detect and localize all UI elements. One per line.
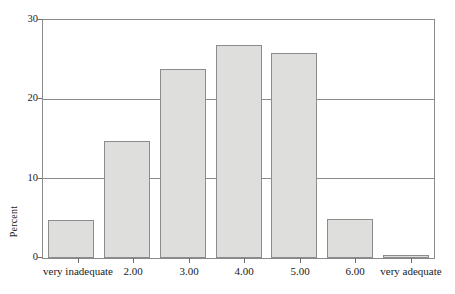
x-tick-mark-5 xyxy=(300,258,301,263)
x-tick-mark-3 xyxy=(189,258,190,263)
x-tick-mark-1 xyxy=(78,258,79,263)
y-tick-label-10: 10 xyxy=(12,173,38,184)
histogram-chart: Percent 30 20 10 0 very inadequate 2.00 … xyxy=(0,0,455,294)
bar xyxy=(48,220,94,258)
bar-series xyxy=(43,20,434,258)
x-tick-label-7: very adequate xyxy=(380,265,441,277)
bar xyxy=(216,45,262,258)
x-tick-label-4: 4.00 xyxy=(234,265,253,277)
x-tick-label-2: 2.00 xyxy=(123,265,142,277)
bar xyxy=(271,53,317,258)
x-tick-mark-6 xyxy=(355,258,356,263)
x-tick-label-5: 5.00 xyxy=(290,265,309,277)
y-axis-ticks: 30 20 10 0 xyxy=(10,0,38,294)
x-tick-mark-2 xyxy=(133,258,134,263)
bar xyxy=(327,219,373,258)
y-tick-label-30: 30 xyxy=(12,14,38,25)
bar xyxy=(160,69,206,258)
x-tick-label-6: 6.00 xyxy=(345,265,364,277)
x-tick-label-3: 3.00 xyxy=(179,265,198,277)
x-tick-label-1: very inadequate xyxy=(43,265,113,277)
x-tick-mark-7 xyxy=(411,258,412,263)
y-tick-label-20: 20 xyxy=(12,93,38,104)
bar xyxy=(383,255,429,258)
bar xyxy=(104,141,150,258)
y-tick-label-0: 0 xyxy=(12,252,38,263)
x-tick-mark-4 xyxy=(244,258,245,263)
plot-area xyxy=(42,19,435,259)
